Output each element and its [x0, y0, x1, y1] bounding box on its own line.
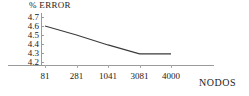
line-chart-figure: % ERROR 4.74.64.54.44.34.2 8128110413081… [0, 0, 249, 96]
x-axis-title: NODOS [199, 77, 236, 89]
series-line-percent-error [45, 26, 171, 54]
